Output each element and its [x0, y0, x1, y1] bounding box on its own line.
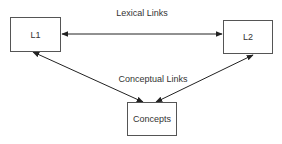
node-l1: L1: [10, 17, 61, 52]
node-concepts: Concepts: [127, 102, 177, 136]
conceptual-links-label: Conceptual Links: [118, 74, 187, 84]
node-l2: L2: [223, 20, 273, 54]
node-concepts-label: Concepts: [133, 114, 171, 124]
node-l2-label: L2: [243, 32, 253, 42]
node-l1-label: L1: [30, 30, 40, 40]
lexical-links-label: Lexical Links: [116, 8, 168, 18]
diagram-canvas: L1 L2 Concepts Lexical Links Conceptual …: [0, 0, 282, 144]
